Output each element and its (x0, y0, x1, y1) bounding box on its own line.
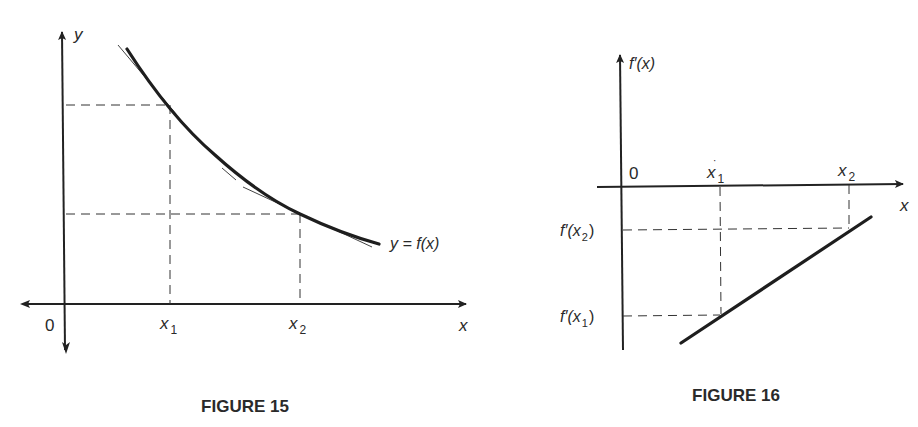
fig16-x2-label: x2 (837, 161, 856, 184)
fig16-x1-label: x1 (706, 163, 725, 186)
fig16-x-axis (597, 184, 903, 187)
fig15-x1-label: x1 (159, 314, 178, 337)
fig15-curve-label: y = f(x) (389, 235, 439, 252)
fig16-caption: FIGURE 16 (692, 386, 780, 405)
fig16-fx2-label: f′(x2) (560, 222, 594, 243)
fig16-derivative-line (681, 217, 871, 343)
fig16-y-axis-label: f′(x) (629, 55, 655, 72)
figure-16: f′(x) 0 x1 · x2 x f′(x2) f′(x1) FIGURE 1… (560, 55, 909, 405)
fig15-x-axis-label: x (458, 316, 468, 335)
fig15-guides (66, 105, 300, 304)
figures-canvas: y 0 x1 x2 x y = f(x) FIGURE 15 f′(x) 0 x… (0, 0, 918, 427)
figure-15: y 0 x1 x2 x y = f(x) FIGURE 15 (20, 25, 468, 416)
fig15-x2-label: x2 (288, 314, 307, 337)
fig15-y-axis-label: y (73, 25, 84, 44)
fig16-fx1-label: f′(x1) (560, 308, 594, 329)
fig15-curve (127, 49, 379, 244)
fig16-x1-dot: · (713, 155, 716, 166)
fig16-x-axis-label: x (899, 196, 909, 215)
fig16-origin-label: 0 (629, 164, 638, 183)
fig15-y-axis (62, 32, 65, 350)
fig16-guides (623, 185, 849, 316)
fig15-caption: FIGURE 15 (201, 397, 289, 416)
fig16-y-axis (620, 55, 623, 350)
fig15-origin-label: 0 (45, 316, 54, 335)
fig15-y-axis-down-arrow-icon (62, 342, 70, 354)
